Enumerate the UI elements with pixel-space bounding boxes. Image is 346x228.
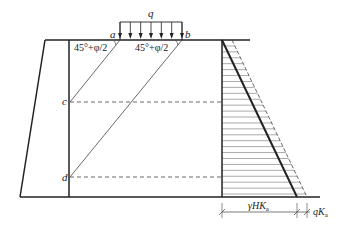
- point-c-label: c: [62, 95, 67, 107]
- surcharge-pressure-label: qKa: [313, 206, 329, 219]
- earth-pressure-figure: q a b 45°+φ/2 45°+φ/2 c d γHKa qKa: [0, 0, 346, 228]
- total-pressure-line: [232, 40, 307, 197]
- soil-pressure-line: [222, 40, 297, 197]
- slip-line-b-d: [70, 40, 182, 177]
- surcharge-load: [118, 22, 184, 40]
- pressure-diagram: [222, 40, 307, 197]
- point-d-label: d: [62, 171, 68, 183]
- angle-label-left: 45°+φ/2: [74, 42, 107, 53]
- point-a-label: a: [110, 28, 116, 40]
- point-b-label: b: [185, 28, 191, 40]
- load-label: q: [148, 7, 154, 19]
- soil-pressure-label: γHKa: [248, 200, 270, 213]
- angle-label-right: 45°+φ/2: [135, 42, 168, 53]
